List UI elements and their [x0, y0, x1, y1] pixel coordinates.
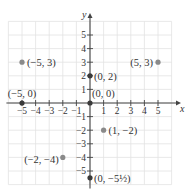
point-marker — [60, 155, 65, 160]
x-tick-label: 4 — [142, 106, 147, 116]
point-label: (5, 3) — [130, 57, 153, 69]
y-axis-arrow-icon — [88, 13, 93, 18]
y-tick-label: −4 — [76, 153, 86, 163]
y-tick-label: −1 — [76, 112, 86, 122]
x-tick-label: 3 — [128, 106, 133, 116]
y-tick-label: 1 — [81, 85, 86, 95]
y-tick-label: −5 — [76, 166, 86, 176]
x-tick-label: 1 — [101, 106, 106, 116]
x-tick-label: −3 — [44, 106, 54, 116]
x-tick-label: 5 — [156, 106, 161, 116]
point-label: (0, 2) — [94, 71, 117, 83]
y-tick-label: 3 — [81, 58, 86, 68]
point-label: (−5, 0) — [8, 88, 37, 100]
y-tick-label: 2 — [81, 71, 86, 81]
point-label: (−2, −4) — [24, 154, 59, 166]
x-axis-label: x — [179, 103, 185, 114]
point-marker — [87, 73, 92, 78]
point-marker — [155, 60, 160, 65]
point-label: (−5, 3) — [27, 57, 56, 69]
y-tick-label: −2 — [76, 126, 86, 136]
point-label: (0, 0) — [92, 88, 115, 100]
y-axis-label: y — [81, 9, 87, 20]
x-tick-label: −4 — [31, 106, 41, 116]
x-tick-label: −5 — [17, 106, 27, 116]
point-label: (0, −5½) — [94, 173, 131, 185]
point-label: (1, −2) — [109, 125, 138, 137]
point-marker — [19, 60, 24, 65]
coordinate-plane: xy −5−4−3−2−112345−5−4−3−2−112345 (−5, 3… — [0, 0, 189, 196]
y-tick-label: 4 — [81, 44, 86, 54]
point-marker — [87, 175, 92, 180]
point-marker — [101, 128, 106, 133]
point-marker — [19, 100, 24, 105]
y-tick-label: −3 — [76, 139, 86, 149]
x-tick-label: 2 — [115, 106, 120, 116]
point-marker — [87, 100, 92, 105]
x-tick-label: −2 — [58, 106, 68, 116]
y-tick-label: 5 — [81, 30, 86, 40]
